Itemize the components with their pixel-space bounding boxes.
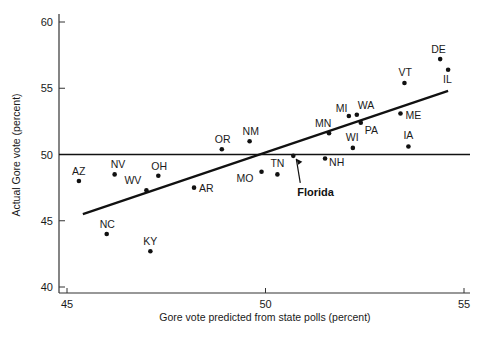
point-label: KY	[143, 235, 157, 247]
y-tick-label: 60	[41, 16, 53, 28]
data-point-oh	[156, 173, 161, 178]
data-point-mn	[327, 131, 332, 136]
point-label: NM	[243, 125, 259, 137]
point-label: MO	[237, 172, 254, 184]
data-point-il	[446, 67, 451, 72]
data-point-nm	[247, 139, 252, 144]
data-point-nh	[323, 156, 328, 161]
data-point-pa	[358, 120, 363, 125]
annotation-florida: Florida	[297, 186, 335, 198]
data-point-me	[398, 111, 403, 116]
data-point-vt	[402, 81, 407, 86]
data-point-ia	[406, 144, 411, 149]
data-point-mi	[347, 114, 352, 119]
data-point-nc	[104, 232, 109, 237]
data-point-az	[77, 179, 82, 184]
point-label: MN	[315, 117, 331, 129]
data-point-wa	[355, 112, 360, 117]
y-tick-label: 40	[41, 281, 53, 293]
point-label: DE	[431, 43, 446, 55]
data-point-tn	[275, 172, 280, 177]
point-label: PA	[365, 124, 378, 136]
data-point-wi	[351, 146, 356, 151]
data-point-nv	[112, 172, 117, 177]
point-label: NC	[100, 218, 116, 230]
y-tick-label: 55	[41, 82, 53, 94]
regression-line	[83, 91, 448, 214]
plot-area: 4045505560 455055 AZNVNCWVOHKYARORNMMOTN…	[41, 14, 470, 310]
x-axis-ticks: 455055	[61, 288, 470, 310]
y-tick-label: 45	[41, 215, 53, 227]
data-point-ky	[148, 249, 153, 254]
point-label: AZ	[72, 165, 86, 177]
data-point-or	[220, 147, 225, 152]
point-label: NV	[111, 158, 126, 170]
point-label: MI	[336, 102, 348, 114]
point-label: ME	[405, 109, 421, 121]
point-label: WV	[124, 174, 141, 186]
data-point-ar	[192, 185, 197, 190]
point-label: OR	[215, 133, 231, 145]
point-label: NH	[329, 156, 344, 168]
x-tick-label: 45	[61, 298, 73, 310]
data-points: AZNVNCWVOHKYARORNMMOTNMNNHMIWAPAWIMEIAVT…	[72, 43, 452, 253]
point-label: WI	[346, 131, 359, 143]
point-label: AR	[199, 182, 214, 194]
y-axis-title: Actual Gore vote (percent)	[10, 93, 22, 216]
point-label: OH	[151, 160, 167, 172]
data-point-florida	[291, 154, 296, 159]
x-tick-label: 50	[259, 298, 271, 310]
data-point-de	[438, 57, 443, 62]
scatter-chart: 4045505560 455055 AZNVNCWVOHKYARORNMMOTN…	[0, 0, 483, 338]
point-label: WA	[358, 99, 375, 111]
x-tick-label: 55	[458, 298, 470, 310]
x-axis-title: Gore vote predicted from state polls (pe…	[159, 311, 370, 323]
point-label: TN	[270, 157, 284, 169]
point-label: IA	[403, 129, 413, 141]
point-label: IL	[443, 73, 452, 85]
point-label: VT	[398, 66, 412, 78]
y-tick-label: 50	[41, 149, 53, 161]
data-point-wv	[144, 188, 149, 193]
data-point-mo	[259, 169, 264, 174]
